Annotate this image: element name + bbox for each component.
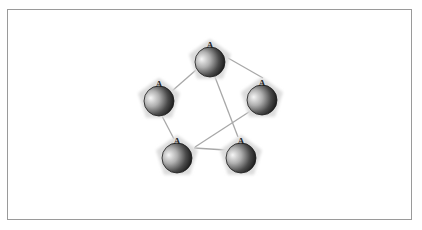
edge-n2-n4 <box>162 116 174 139</box>
node-sphere-icon <box>247 85 277 115</box>
node-bottom-right: A <box>220 135 262 175</box>
edge-n1-n5 <box>215 77 238 137</box>
node-sphere-icon <box>144 86 174 116</box>
node-bottom-left: A <box>156 135 198 175</box>
edge-n1-n3 <box>228 58 263 78</box>
node-sphere-icon <box>162 143 192 173</box>
node-right: A <box>241 77 283 117</box>
node-label: A <box>259 78 266 88</box>
node-sphere-icon <box>195 47 225 77</box>
node-label: A <box>238 136 245 146</box>
node-sphere-icon <box>226 143 256 173</box>
nodes-group: AAAAA <box>138 39 283 175</box>
node-label: A <box>156 79 163 89</box>
edge-n1-n2 <box>172 70 196 91</box>
network-diagram: AAAAA <box>0 0 422 230</box>
node-left: A <box>138 78 180 118</box>
node-label: A <box>207 40 214 50</box>
node-top: A <box>189 39 231 79</box>
node-label: A <box>174 136 181 146</box>
